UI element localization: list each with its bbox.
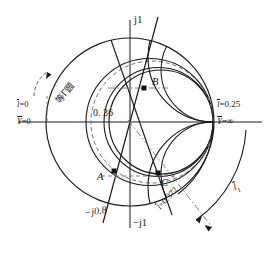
label-point-c: C [161,177,168,188]
label-left-y-value: =0 [22,116,31,126]
label-left-l-value: =0 [19,99,28,109]
label-right-l-symbol: l [217,100,220,109]
marker-point-b[interactable] [142,86,147,91]
arrowhead-rotation [205,225,213,232]
arc-l-0372 [178,122,213,194]
label-point-a: A [97,171,103,182]
rotation-arrow-arc [34,72,47,96]
label-right-y-symbol: Y [217,117,222,126]
label-right-l: l=0.25 [217,100,240,109]
arrowhead-l1 [196,216,202,224]
label-right-y-value: =∞ [222,116,234,126]
label-left-y-zero: Y=0 [17,117,31,126]
label-036: 0. 36 [93,108,113,119]
arc-l1 [196,130,246,220]
arrowhead-rotation-upper [46,72,52,79]
radial-line-bc [111,40,172,215]
reactance-arc-group [148,0,276,252]
label-right-l-value: =0.25 [220,99,241,109]
label-point-b: B [152,76,158,87]
label-minus-j1: −j1 [133,217,147,228]
figure-canvas: j1 −j1 −j0.8 l=0 Y=0 l=0.25 Y=∞ 0. 36 等Γ… [0,0,276,259]
label-j1: j1 [134,14,143,26]
label-left-l-zero: l=0 [17,100,28,109]
label-right-y: Y=∞ [217,117,234,126]
marker-point-c[interactable] [156,171,161,176]
marker-point-a[interactable] [112,169,117,174]
label-left-y-symbol: Y [17,117,22,126]
label-left-l-symbol: l [17,100,19,109]
